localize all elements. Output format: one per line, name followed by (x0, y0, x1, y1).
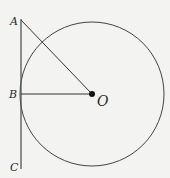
label-c: C (10, 161, 19, 174)
label-o: O (97, 93, 109, 109)
center-point-o (89, 91, 95, 97)
label-a: A (9, 15, 18, 28)
label-b: B (8, 88, 17, 101)
geometry-diagram: A B C O (0, 0, 170, 178)
